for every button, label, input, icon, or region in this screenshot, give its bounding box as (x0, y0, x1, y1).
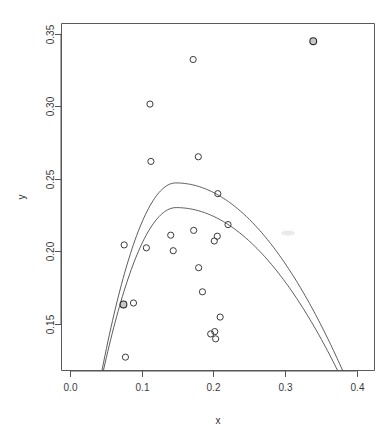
y-tick-label: 0.25 (45, 169, 56, 189)
figure-container: 0.00.10.20.30.4 0.150.200.250.300.35 x y (0, 0, 392, 442)
y-axis-title: y (16, 195, 27, 200)
x-tick-label: 0.1 (136, 382, 150, 393)
y-tick-label: 0.15 (45, 314, 56, 334)
y-tick-label: 0.35 (45, 24, 56, 44)
x-axis-title: x (216, 415, 221, 426)
data-point-highlighted (120, 301, 127, 308)
scatter-plot: 0.00.10.20.30.4 0.150.200.250.300.35 x y (0, 0, 392, 442)
x-tick-label: 0.3 (279, 382, 293, 393)
x-tick-label: 0.4 (351, 382, 365, 393)
scan-artifact (281, 231, 295, 236)
data-point-highlighted (310, 38, 317, 45)
x-tick-label: 0.0 (64, 382, 78, 393)
y-tick-label: 0.20 (45, 241, 56, 261)
plot-background (0, 0, 392, 442)
x-tick-label: 0.2 (207, 382, 221, 393)
y-tick-label: 0.30 (45, 96, 56, 116)
